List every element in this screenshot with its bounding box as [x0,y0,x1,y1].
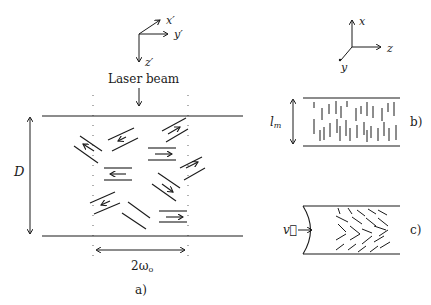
axis-y-prime-label: y′ [173,28,183,41]
primed-axes [139,20,168,62]
diagram-canvas: x′ y′ z′ Laser beam D [0,0,431,305]
molecule-pairs [74,118,205,229]
lab-axis-x-label: x [359,15,366,28]
velocity-label: v⃗ [283,223,297,237]
layer-thickness-label: lm [270,115,282,130]
thickness-label: D [13,164,25,179]
panel-b-caption: b) [410,115,422,129]
lab-axis-z-label: z [386,42,393,55]
laser-beam-label: Laser beam [108,72,180,86]
lab-axis-y-label: y [340,61,348,74]
panel-a-caption: a) [135,283,147,297]
beam-width-label: 2ωo [131,259,153,274]
axis-x-prime-label: x′ [166,14,175,27]
panel-c-caption: c) [410,223,421,237]
flow-aligned-molecules [336,208,390,252]
axis-z-prime-label: z′ [144,56,154,69]
homeotropic-molecules [314,101,396,142]
